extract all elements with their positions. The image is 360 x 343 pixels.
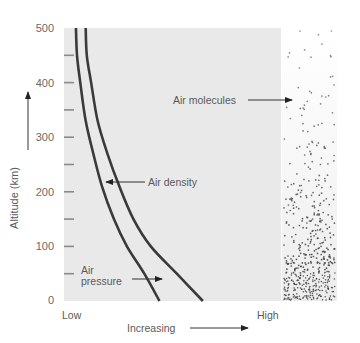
y-axis-label: Altitude (km)	[8, 167, 20, 229]
molecule-panel	[282, 28, 337, 301]
y-tick-label-200: 200	[24, 186, 54, 198]
air-density-label: Air density	[148, 177, 197, 188]
altitude-chart: Altitude (km)	[0, 0, 360, 343]
y-tick-label-400: 400	[24, 77, 54, 89]
x-high-label: High	[257, 310, 279, 321]
air-pressure-label-line2: pressure	[81, 276, 122, 287]
y-tick-label-500: 500	[24, 22, 54, 34]
x-axis-label: Increasing	[127, 323, 175, 334]
air-molecules-label: Air molecules	[173, 95, 236, 106]
y-tick-label-100: 100	[24, 240, 54, 252]
y-tick-label-0: 0	[24, 294, 54, 306]
air-pressure-label: Air pressure	[81, 265, 122, 287]
x-low-label: Low	[62, 310, 81, 321]
y-tick-label-300: 300	[24, 131, 54, 143]
